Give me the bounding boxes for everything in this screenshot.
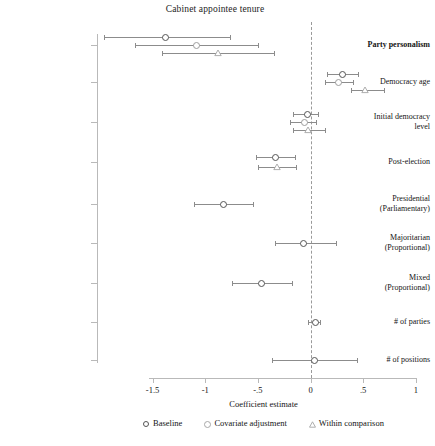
y-axis-label: Mixed(Proportional) [342, 273, 430, 293]
estimate-marker-triangle [304, 126, 312, 134]
confidence-interval-cap [316, 120, 317, 125]
x-axis-tick [153, 378, 154, 383]
estimate-marker-circle [335, 79, 342, 86]
confidence-interval-cap [274, 51, 275, 56]
triangle-open-icon [309, 420, 315, 426]
y-axis-label: Post-election [342, 157, 430, 167]
confidence-interval-cap [336, 241, 337, 246]
confidence-interval-cap [293, 128, 294, 133]
y-axis-label: Majoritarian(Proportional) [342, 233, 430, 253]
x-axis-tick-label: -1.5 [133, 385, 173, 395]
x-axis-title: Coefficient estimate [97, 399, 430, 409]
confidence-interval-cap [325, 80, 326, 85]
x-axis-tick [363, 378, 364, 383]
confidence-interval-cap [357, 358, 358, 363]
confidence-interval-cap [104, 35, 105, 40]
y-axis-tick [91, 322, 97, 323]
confidence-interval-cap [292, 281, 293, 286]
confidence-interval-cap [232, 281, 233, 286]
x-axis-tick [258, 378, 259, 383]
confidence-interval-cap [308, 320, 309, 325]
legend-label: Within comparison [319, 418, 384, 428]
circle-filled-icon [143, 420, 149, 426]
y-axis-tick [91, 162, 97, 163]
y-axis-tick [91, 243, 97, 244]
estimate-marker-circle [193, 42, 200, 49]
legend-item: Within comparison [309, 418, 384, 428]
estimate-marker-circle [258, 280, 265, 287]
confidence-interval-cap [162, 51, 163, 56]
estimate-marker-triangle [214, 49, 222, 57]
y-axis-tick [91, 283, 97, 284]
x-axis-tick [416, 378, 417, 383]
zero-reference-line [311, 22, 312, 378]
confidence-interval-cap [318, 112, 319, 117]
y-axis-label-line: Initial democracy [342, 112, 430, 122]
confidence-interval-cap [275, 241, 276, 246]
confidence-interval-cap [194, 202, 195, 207]
y-axis-label-line: Democracy age [342, 77, 430, 87]
confidence-interval-cap [230, 35, 231, 40]
y-axis-label-line: (Parliamentary) [342, 204, 430, 214]
confidence-interval-cap [351, 88, 352, 93]
x-axis-tick-label: .5 [343, 385, 383, 395]
y-axis-tick [91, 204, 97, 205]
x-axis-tick-label: 0 [291, 385, 331, 395]
y-axis-label-line: Post-election [342, 157, 430, 167]
estimate-marker-circle [300, 240, 307, 247]
y-axis-label-line: Majoritarian [342, 233, 430, 243]
x-axis-tick-label: 1 [396, 385, 435, 395]
y-axis-label-line: Presidential [342, 194, 430, 204]
y-axis-label: Democracy age [342, 77, 430, 87]
confidence-interval-cap [327, 72, 328, 77]
legend-label: Baseline [153, 418, 182, 428]
confidence-interval-cap [256, 155, 257, 160]
y-axis-label-line: Party personalism [342, 40, 430, 50]
confidence-interval-cap [296, 165, 297, 170]
confidence-interval-cap [258, 43, 259, 48]
y-axis-tick [91, 82, 97, 83]
legend-label: Covariate adjustment [214, 418, 286, 428]
estimate-marker-triangle [273, 163, 281, 171]
legend-item: Covariate adjustment [204, 418, 286, 428]
y-axis-tick [91, 122, 97, 123]
estimate-marker-circle [272, 154, 279, 161]
y-axis-label-line: # of parties [342, 317, 430, 327]
x-axis-tick-label: -.5 [238, 385, 278, 395]
estimate-marker-triangle [361, 86, 369, 94]
confidence-interval-cap [253, 202, 254, 207]
confidence-interval-cap [135, 43, 136, 48]
y-axis-label-line: (Proportional) [342, 243, 430, 253]
y-axis-line [97, 34, 98, 363]
y-axis-label-line: (Proportional) [342, 283, 430, 293]
confidence-interval-cap [325, 128, 326, 133]
y-axis-label-line: Mixed [342, 273, 430, 283]
estimate-marker-circle [162, 34, 169, 41]
confidence-interval-cap [290, 120, 291, 125]
y-axis-label: Party personalism [342, 40, 430, 50]
circle-open-icon [204, 420, 210, 426]
y-axis-tick [91, 360, 97, 361]
x-axis-tick [311, 378, 312, 383]
x-axis-tick [205, 378, 206, 383]
estimate-marker-circle [220, 201, 227, 208]
legend-item: Baseline [143, 418, 182, 428]
x-axis-line [149, 378, 417, 379]
confidence-interval-cap [384, 88, 385, 93]
estimate-marker-circle [312, 319, 319, 326]
y-axis-label: # of parties [342, 317, 430, 327]
y-axis-label: Initial democracylevel [342, 112, 430, 132]
confidence-interval-cap [353, 80, 354, 85]
confidence-interval-cap [293, 112, 294, 117]
estimate-marker-circle [311, 357, 318, 364]
confidence-interval-cap [358, 72, 359, 77]
y-axis-label-line: level [342, 122, 430, 132]
x-axis-tick-label: -1 [185, 385, 225, 395]
confidence-interval-cap [258, 165, 259, 170]
estimate-marker-circle [301, 119, 308, 126]
confidence-interval-cap [320, 320, 321, 325]
confidence-interval-cap [295, 155, 296, 160]
y-axis-tick [91, 45, 97, 46]
